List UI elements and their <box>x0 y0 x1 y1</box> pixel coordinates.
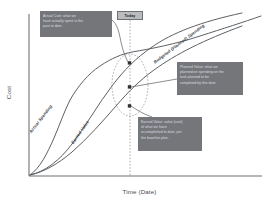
y-axis-label: Cost <box>5 73 12 113</box>
annotation-earned-value-line-4: the baseline plan. <box>141 136 199 141</box>
annotation-planned-value: Planned Value: what we planned on spendi… <box>177 62 243 95</box>
annotation-planned-value-line-4: completed by this date. <box>180 81 240 86</box>
leader-line-earned-value <box>131 106 152 117</box>
x-axis-label: Time (Date) <box>0 188 279 195</box>
curve-earned-value <box>30 26 242 175</box>
marker-actual-cost <box>128 61 131 64</box>
marker-planned-value <box>128 85 131 88</box>
evm-chart-figure: Today Actual Cost: what we have actually… <box>0 0 279 207</box>
annotation-actual-cost: Actual Cost: what we have actually spent… <box>40 11 112 37</box>
marker-earned-value <box>128 104 131 107</box>
annotation-actual-cost-line-3: past to date. <box>43 24 109 29</box>
curve-actual-spending <box>30 16 261 175</box>
annotation-earned-value: Earned Value: value (cost) of what we ha… <box>138 117 202 151</box>
today-marker-label: Today <box>117 11 143 20</box>
